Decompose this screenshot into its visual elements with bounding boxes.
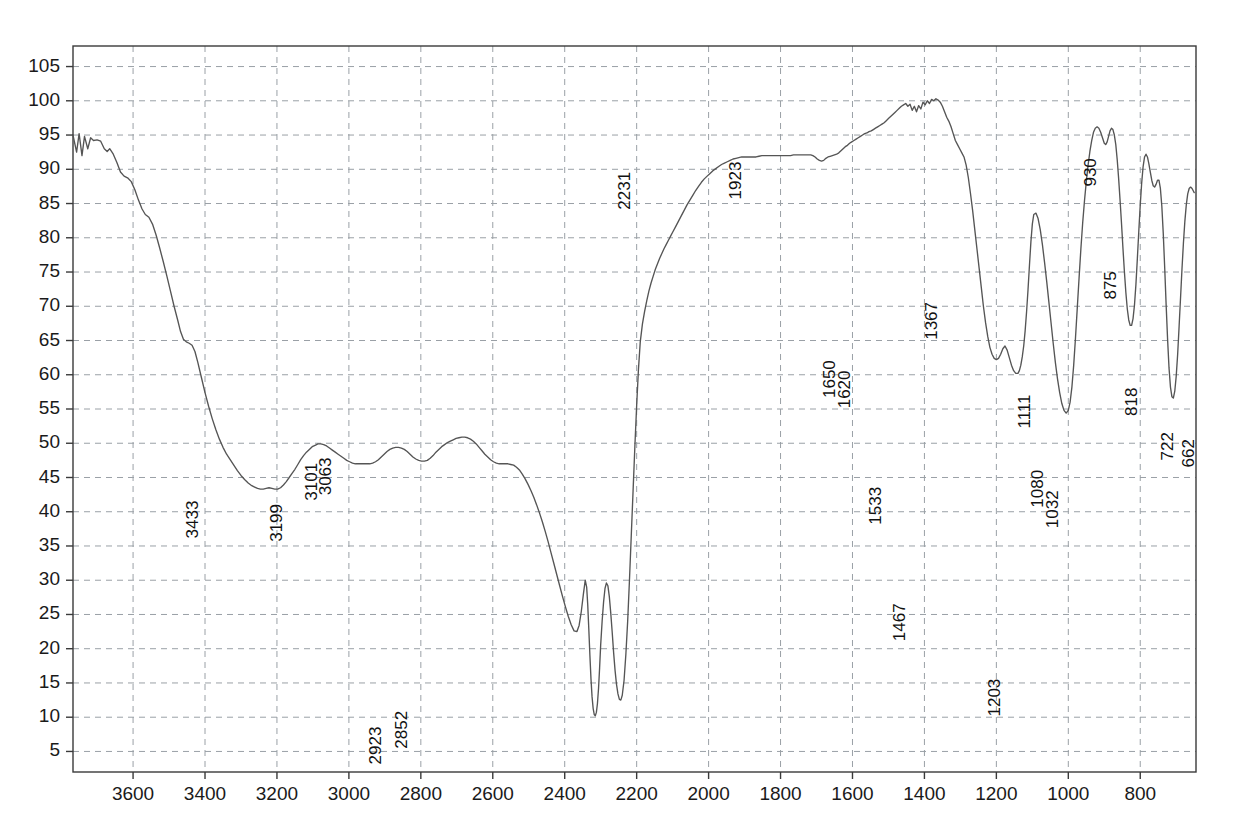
peak-label: 1533: [866, 487, 885, 525]
y-axis-tick-label: 45: [39, 466, 60, 487]
peak-label: 662: [1179, 439, 1198, 467]
y-axis-tick-label: 80: [39, 226, 60, 247]
x-axis-tick-label: 2600: [472, 783, 514, 804]
x-axis-tick-label: 2800: [400, 783, 442, 804]
x-axis-tick-label: 800: [1124, 783, 1156, 804]
y-axis-tick-label: 100: [28, 89, 60, 110]
y-axis-tick-label: 15: [39, 671, 60, 692]
x-axis-tick-label: 1600: [831, 783, 873, 804]
y-axis-tick-label: 25: [39, 602, 60, 623]
y-axis-tick-label: 5: [49, 739, 60, 760]
ir-spectrum-chart: 5101520253035404550556065707580859095100…: [0, 0, 1242, 839]
peak-label: 3063: [316, 458, 335, 496]
peak-label: 818: [1122, 388, 1141, 416]
y-axis-tick-label: 30: [39, 568, 60, 589]
peak-label: 2231: [615, 172, 634, 210]
x-axis-tick-label: 2000: [687, 783, 729, 804]
peak-label: 722: [1158, 432, 1177, 460]
x-axis-tick-label: 3000: [328, 783, 370, 804]
x-axis-tick-label: 1000: [1047, 783, 1089, 804]
peak-label: 2852: [392, 711, 411, 749]
y-axis-tick-label: 75: [39, 260, 60, 281]
x-axis-tick-label: 1200: [975, 783, 1017, 804]
y-axis-tick-label: 10: [39, 705, 60, 726]
peak-label: 2923: [366, 727, 385, 765]
x-axis-tick-label: 2200: [616, 783, 658, 804]
x-axis-tick-label: 3600: [112, 783, 154, 804]
y-axis-tick-label: 105: [28, 55, 60, 76]
y-axis-tick-label: 90: [39, 157, 60, 178]
peak-label: 1111: [1015, 395, 1034, 429]
peak-label: 1923: [726, 162, 745, 200]
peak-label: 3433: [183, 501, 202, 539]
x-axis-tick-label: 1400: [903, 783, 945, 804]
x-axis-tick-label: 3200: [256, 783, 298, 804]
y-axis-tick-label: 85: [39, 192, 60, 213]
ir-spectrum-page: 5101520253035404550556065707580859095100…: [0, 0, 1242, 839]
x-axis-tick-label: 3400: [184, 783, 226, 804]
peak-label: 3199: [267, 504, 286, 542]
peak-label: 1367: [922, 302, 941, 340]
y-axis-tick-label: 65: [39, 329, 60, 350]
peak-label: 875: [1101, 271, 1120, 299]
peak-label: 1467: [890, 603, 909, 641]
y-axis-tick-label: 70: [39, 294, 60, 315]
y-axis-tick-label: 95: [39, 123, 60, 144]
peak-label: 1032: [1043, 490, 1062, 528]
y-axis-tick-label: 35: [39, 534, 60, 555]
peak-label: 1620: [835, 371, 854, 409]
chart-background: [0, 0, 1242, 839]
y-axis-tick-label: 55: [39, 397, 60, 418]
x-axis-tick-label: 2400: [544, 783, 586, 804]
y-axis-tick-label: 40: [39, 500, 60, 521]
y-axis-tick-label: 50: [39, 431, 60, 452]
x-axis-tick-label: 1800: [759, 783, 801, 804]
peak-label: 930: [1081, 158, 1100, 186]
peak-label: 1203: [985, 679, 1004, 717]
y-axis-tick-label: 60: [39, 363, 60, 384]
y-axis-tick-label: 20: [39, 637, 60, 658]
